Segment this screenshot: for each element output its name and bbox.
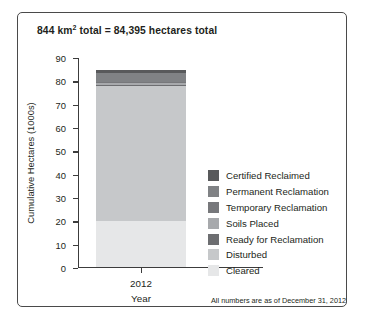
legend-swatch-icon xyxy=(208,218,219,229)
chart-title-prefix: 844 km xyxy=(37,25,73,36)
y-axis-tick: 30 xyxy=(73,198,78,199)
y-axis-tick-label: 50 xyxy=(56,146,66,157)
y-axis-tick-label: 20 xyxy=(56,216,66,227)
legend: Certified ReclaimedPermanent Reclamation… xyxy=(208,168,366,279)
y-axis-tick: 40 xyxy=(73,175,78,176)
legend-item: Permanent Reclamation xyxy=(208,184,366,200)
legend-swatch-icon xyxy=(208,249,219,260)
y-axis-tick: 10 xyxy=(73,245,78,246)
legend-item: Cleared xyxy=(208,263,366,279)
legend-label: Disturbed xyxy=(226,249,267,260)
bar-segment-cleared xyxy=(96,221,186,267)
legend-item: Certified Reclaimed xyxy=(208,168,366,184)
y-axis-tick-label: 70 xyxy=(56,99,66,110)
legend-label: Soils Placed xyxy=(226,218,279,229)
legend-label: Ready for Reclamation xyxy=(226,234,324,245)
legend-item: Ready for Reclamation xyxy=(208,231,366,247)
legend-swatch-icon xyxy=(208,202,219,213)
legend-item: Temporary Reclamation xyxy=(208,200,366,216)
x-axis-title: Year xyxy=(131,293,151,304)
legend-item: Soils Placed xyxy=(208,215,366,231)
y-axis-tick: 70 xyxy=(73,105,78,106)
y-axis-tick: 0 xyxy=(73,268,78,269)
legend-item: Disturbed xyxy=(208,247,366,263)
y-axis-line xyxy=(78,58,79,268)
legend-label: Cleared xyxy=(226,265,260,276)
x-axis-tick-label: 2012 xyxy=(130,278,152,289)
y-axis-tick: 60 xyxy=(73,128,78,129)
y-axis-tick-label: 10 xyxy=(56,239,66,250)
y-axis-tick-label: 60 xyxy=(56,123,66,134)
legend-label: Certified Reclaimed xyxy=(226,170,310,181)
bar-segment-disturbed xyxy=(96,86,186,221)
y-axis-tick-label: 40 xyxy=(56,169,66,180)
legend-swatch-icon xyxy=(208,170,219,181)
chart-title-suffix: total = 84,395 hectares total xyxy=(77,25,218,36)
y-axis-tick-label: 0 xyxy=(61,263,66,274)
legend-swatch-icon xyxy=(208,265,219,276)
legend-label: Permanent Reclamation xyxy=(226,186,329,197)
legend-swatch-icon xyxy=(208,186,219,197)
plot-area: 9080706050403020100 Cumulative Hectares … xyxy=(78,58,206,268)
x-axis-tick xyxy=(141,268,142,273)
footnote: All numbers are as of December 31, 2012 xyxy=(211,296,346,305)
bar-segment-permanent-reclamation xyxy=(96,73,186,82)
y-axis-tick: 80 xyxy=(73,81,78,82)
y-axis-tick-label: 90 xyxy=(56,53,66,64)
stacked-bar-2012 xyxy=(96,70,186,267)
legend-swatch-icon xyxy=(208,234,219,245)
y-axis-title: Cumulative Hectares (1000s) xyxy=(25,102,36,223)
y-axis-tick: 90 xyxy=(73,58,78,59)
y-axis-tick-label: 80 xyxy=(56,76,66,87)
y-axis-tick: 20 xyxy=(73,221,78,222)
chart-frame: 844 km2 total = 84,395 hectares total 90… xyxy=(17,12,347,307)
legend-label: Temporary Reclamation xyxy=(226,202,327,213)
y-axis-tick: 50 xyxy=(73,151,78,152)
y-axis-tick-label: 30 xyxy=(56,193,66,204)
chart-title: 844 km2 total = 84,395 hectares total xyxy=(37,25,217,36)
